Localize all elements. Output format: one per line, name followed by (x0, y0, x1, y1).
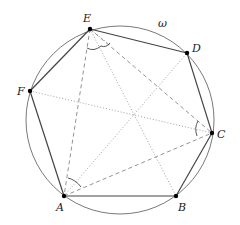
dotted-diagonals (30, 29, 212, 196)
hexagon-sides (30, 29, 212, 196)
label-d: D (191, 42, 201, 55)
geometry-diagram: A B C D E F ω (0, 0, 240, 225)
label-e: E (82, 12, 91, 25)
label-omega: ω (158, 17, 167, 30)
label-c: C (217, 128, 226, 141)
label-a: A (55, 201, 64, 214)
label-f: F (16, 85, 25, 98)
label-b: B (177, 201, 186, 214)
